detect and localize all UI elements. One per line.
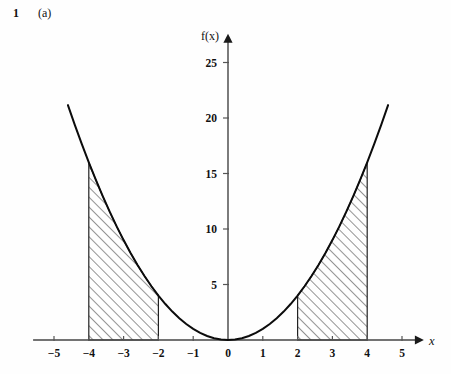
y-tick-label: 5 [211,279,217,291]
x-axis-tick-labels: −5−4−3−2−1012345 [48,347,405,359]
y-axis-label: f(x) [201,29,219,43]
x-tick-label: −5 [48,347,61,359]
x-tick-label: −4 [83,347,96,359]
graph-figure: −5−4−3−2−1012345 510152025 f(x) x [0,0,451,374]
y-tick-label: 15 [206,168,218,180]
svg-text:f(x): f(x) [201,29,219,43]
x-tick-label: 2 [295,347,301,359]
page-canvas: 1 (a) [0,0,451,374]
x-tick-label: 0 [225,347,231,359]
x-tick-label: 4 [364,347,370,359]
y-tick-label: 20 [206,112,218,124]
x-tick-label: −1 [187,347,200,359]
svg-text:x: x [428,334,435,348]
y-axis-tick-labels: 510152025 [206,57,218,291]
x-tick-label: 3 [330,347,336,359]
x-tick-label: 1 [260,347,266,359]
x-tick-label: −2 [152,347,165,359]
x-tick-label: 5 [399,347,405,359]
y-axis [223,34,232,340]
x-tick-label: −3 [117,347,130,359]
x-axis-label: x [428,334,435,348]
y-tick-label: 25 [206,57,218,69]
y-tick-label: 10 [206,223,218,235]
